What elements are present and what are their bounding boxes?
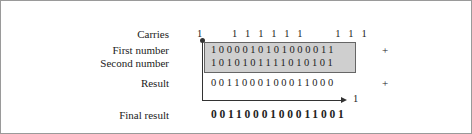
first-number-label: First number — [112, 44, 169, 56]
first-number: 1000010101000011 — [211, 44, 336, 55]
carries-label: Carries — [137, 28, 169, 40]
final-result: 0011000100011001 — [211, 108, 347, 120]
result-label: Result — [141, 77, 169, 89]
wrap-carry: 1 — [353, 93, 361, 104]
second-number: 1010101111010101 — [211, 57, 335, 68]
result-value: 0011000100011000 — [211, 77, 336, 88]
wrap-line-vertical — [202, 41, 203, 101]
carries-row: 1 1 1 1 1 11 1 1 — [217, 28, 369, 39]
plus-sign-2: + — [382, 77, 388, 89]
final-result-label: Final result — [119, 109, 169, 121]
second-number-label: Second number — [100, 57, 169, 69]
diagram-frame: Carries 1 1 1 1 1 1 11 1 1 First number … — [0, 0, 472, 134]
wrap-line-horizontal — [202, 100, 345, 101]
plus-sign: + — [382, 44, 388, 56]
arrow-right-icon — [341, 97, 347, 103]
